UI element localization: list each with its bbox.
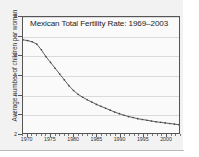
- data-point-marker: [146, 119, 148, 121]
- data-point-marker: [27, 40, 29, 42]
- x-axis-minor-tick-mark: [82, 134, 83, 136]
- data-point-marker: [73, 90, 75, 92]
- x-axis-tick-mark: [27, 134, 28, 137]
- x-axis-minor-tick-mark: [171, 134, 172, 136]
- y-axis-tick-label: 3: [3, 111, 17, 117]
- chart-figure: Average number of children per woman 876…: [0, 0, 199, 157]
- data-point-marker: [54, 67, 56, 69]
- figure-bottom-margin: [0, 151, 199, 157]
- data-point-marker: [59, 73, 61, 75]
- data-point-marker: [169, 123, 171, 125]
- x-axis-minor-tick-mark: [87, 134, 88, 136]
- x-axis-minor-tick-mark: [175, 134, 176, 136]
- data-point-marker: [31, 41, 33, 43]
- x-axis-minor-tick-mark: [110, 134, 111, 136]
- x-axis-minor-tick-mark: [129, 134, 130, 136]
- y-axis-tick-label: 4: [3, 92, 17, 98]
- figure-right-margin: [183, 0, 199, 150]
- x-axis-minor-tick-mark: [36, 134, 37, 136]
- data-point-marker: [174, 123, 176, 125]
- data-point-marker: [86, 99, 88, 101]
- x-axis-tick-mark: [50, 134, 51, 137]
- x-axis-minor-tick-mark: [45, 134, 46, 136]
- x-axis-minor-tick-mark: [161, 134, 162, 136]
- x-axis-minor-tick-mark: [115, 134, 116, 136]
- x-axis-minor-tick-mark: [31, 134, 32, 136]
- x-axis-minor-tick-mark: [64, 134, 65, 136]
- y-axis-tick-label: 7: [3, 33, 17, 39]
- x-axis-minor-tick-mark: [106, 134, 107, 136]
- data-point-marker: [68, 85, 70, 87]
- data-point-marker: [63, 79, 65, 81]
- data-point-marker: [114, 111, 116, 113]
- x-axis-minor-tick-mark: [55, 134, 56, 136]
- x-axis-minor-tick-mark: [180, 134, 181, 136]
- data-point-marker: [155, 121, 157, 123]
- data-point-marker: [164, 122, 166, 124]
- data-point-marker: [45, 56, 47, 58]
- data-point-marker: [123, 114, 125, 116]
- x-axis-minor-tick-mark: [41, 134, 42, 136]
- x-axis-minor-tick-mark: [134, 134, 135, 136]
- data-point-marker: [137, 118, 139, 120]
- data-point-marker: [77, 94, 79, 96]
- x-axis-minor-tick-mark: [68, 134, 69, 136]
- x-axis-minor-tick-mark: [147, 134, 148, 136]
- data-point-marker: [105, 107, 107, 109]
- series-line: [23, 40, 179, 125]
- y-axis-label: Average number of children per woman: [11, 2, 18, 130]
- y-axis-tick-label: 8: [3, 13, 17, 19]
- x-axis-tick-mark: [96, 134, 97, 137]
- data-point-marker: [128, 116, 130, 118]
- data-point-marker: [100, 105, 102, 107]
- fertility-rate-line-series: [23, 17, 179, 133]
- y-axis-tick-label: 6: [3, 52, 17, 58]
- x-axis-tick-mark: [166, 134, 167, 137]
- data-point-marker: [91, 101, 93, 103]
- data-point-marker: [178, 124, 179, 126]
- data-point-marker: [141, 119, 143, 121]
- data-point-marker: [109, 109, 111, 111]
- x-axis-minor-tick-mark: [138, 134, 139, 136]
- x-axis-minor-tick-mark: [78, 134, 79, 136]
- x-axis-tick-mark: [73, 134, 74, 137]
- x-axis-minor-tick-mark: [124, 134, 125, 136]
- y-axis-tick-label: 5: [3, 72, 17, 78]
- chart-title: Mexican Total Fertility Rate: 1969–2003: [30, 19, 168, 29]
- data-point-marker: [151, 120, 153, 122]
- x-axis-tick-mark: [120, 134, 121, 137]
- data-point-marker: [36, 43, 38, 45]
- data-point-marker: [160, 122, 162, 124]
- x-axis-minor-tick-mark: [101, 134, 102, 136]
- data-point-marker: [82, 96, 84, 98]
- x-axis-minor-tick-mark: [92, 134, 93, 136]
- data-point-marker: [119, 113, 121, 115]
- x-axis-minor-tick-mark: [152, 134, 153, 136]
- x-axis-tick-mark: [143, 134, 144, 137]
- data-point-marker: [96, 104, 98, 106]
- x-axis-minor-tick-mark: [157, 134, 158, 136]
- data-point-marker: [132, 117, 134, 119]
- x-axis-minor-tick-mark: [59, 134, 60, 136]
- data-point-marker: [50, 62, 52, 64]
- x-axis-minor-tick-mark: [22, 134, 23, 136]
- plot-area: [22, 16, 180, 134]
- data-point-marker: [41, 49, 43, 51]
- data-point-marker: [23, 39, 24, 41]
